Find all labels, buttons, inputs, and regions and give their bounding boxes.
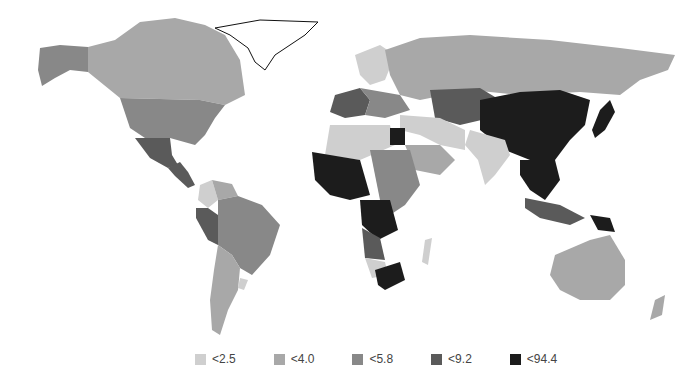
region-indonesia: [525, 198, 585, 225]
legend-swatch: [195, 354, 206, 365]
legend-item: <5.8: [352, 352, 393, 366]
region-southeast-asia: [520, 160, 560, 200]
legend-label: <5.8: [369, 352, 393, 366]
legend-label: <94.4: [527, 352, 557, 366]
legend-swatch: [510, 354, 521, 365]
legend: <2.5 <4.0 <5.8 <9.2 <94.4: [195, 351, 557, 367]
region-peru-ecuador: [196, 208, 218, 245]
legend-item: <4.0: [274, 352, 315, 366]
region-russia: [385, 35, 675, 100]
legend-swatch: [431, 354, 442, 365]
region-united-states: [120, 98, 225, 145]
region-uruguay: [238, 278, 248, 290]
legend-label: <9.2: [448, 352, 472, 366]
region-mexico: [135, 138, 178, 168]
region-egypt: [390, 128, 405, 145]
region-alaska: [38, 45, 88, 86]
legend-label: <2.5: [212, 352, 236, 366]
region-new-zealand: [650, 295, 665, 320]
region-papua-new-guinea: [590, 215, 615, 232]
world-choropleth-map: [0, 0, 689, 345]
legend-item: <9.2: [431, 352, 472, 366]
region-madagascar: [422, 238, 432, 265]
region-japan: [592, 100, 615, 138]
legend-swatch: [352, 354, 363, 365]
legend-swatch: [274, 354, 285, 365]
legend-label: <4.0: [291, 352, 315, 366]
legend-item: <2.5: [195, 352, 236, 366]
region-australia: [550, 235, 625, 300]
legend-item: <94.4: [510, 352, 557, 366]
